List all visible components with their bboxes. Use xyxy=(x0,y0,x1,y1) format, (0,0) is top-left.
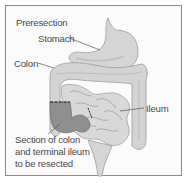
resected-label-line2: and terminal ileum xyxy=(15,146,90,157)
resected-label-line1: Section of colon xyxy=(15,134,80,145)
colon-leader xyxy=(38,63,54,68)
stomach-label: Stomach xyxy=(38,33,74,44)
figure-title: Preresection xyxy=(16,17,67,28)
resected-label-line3: to be resected xyxy=(15,158,73,169)
rectum-illustration xyxy=(88,140,112,176)
colon-label: Colon xyxy=(14,58,38,69)
ileum-label: Ileum xyxy=(146,103,168,114)
